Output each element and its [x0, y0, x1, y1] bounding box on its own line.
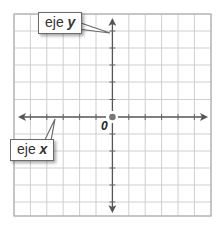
y-callout-word: eje: [45, 14, 64, 30]
x-callout-word: eje: [17, 141, 36, 157]
origin-label: 0: [101, 119, 108, 133]
x-callout-var: x: [40, 141, 48, 157]
y-callout-var: y: [68, 14, 76, 30]
x-axis-callout: eje x: [10, 139, 54, 161]
origin-point: [109, 114, 116, 121]
y-axis-callout: eje y: [38, 12, 82, 34]
coordinate-plane: [0, 0, 218, 231]
